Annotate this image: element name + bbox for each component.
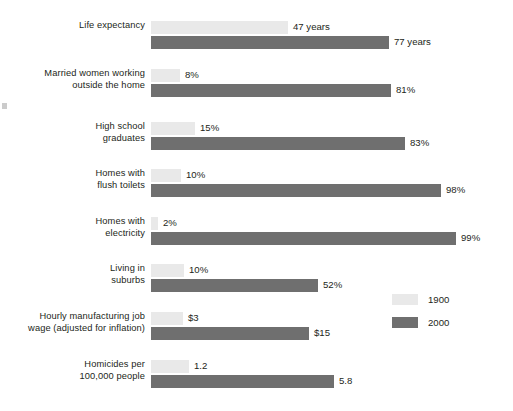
category-label: Married women workingoutside the home bbox=[0, 68, 145, 91]
legend-item: 1900 bbox=[392, 291, 502, 314]
bar-2000 bbox=[151, 279, 318, 292]
bar-2000 bbox=[151, 327, 309, 340]
legend-swatch-icon bbox=[392, 317, 418, 328]
category-label: Homes withelectricity bbox=[0, 216, 145, 239]
legend-item: 2000 bbox=[392, 314, 502, 337]
category-label-line: High school bbox=[0, 121, 145, 133]
category-label-line: electricity bbox=[0, 228, 145, 240]
category-label: Hourly manufacturing jobwage (adjusted f… bbox=[0, 311, 145, 334]
bar-2000 bbox=[151, 232, 456, 245]
category-label-line: wage (adjusted for inflation) bbox=[0, 323, 145, 335]
bar-1900 bbox=[151, 312, 183, 325]
category-label: Living insuburbs bbox=[0, 263, 145, 286]
category-label-line: outside the home bbox=[0, 80, 145, 92]
category-label-line: suburbs bbox=[0, 275, 145, 287]
legend-label: 2000 bbox=[428, 314, 449, 331]
category-label: Life expectancy bbox=[0, 20, 145, 32]
bar-value-label: 8% bbox=[185, 68, 199, 82]
bar-1900 bbox=[151, 69, 180, 82]
category-label: Homes withflush toilets bbox=[0, 168, 145, 191]
category-label-line: Living in bbox=[0, 263, 145, 275]
bar-value-label: 10% bbox=[186, 168, 205, 182]
category-label: Homicides per100,000 people bbox=[0, 359, 145, 382]
category-label-line: Homes with bbox=[0, 216, 145, 228]
bar-value-label: 99% bbox=[461, 231, 480, 245]
bar-value-label: 52% bbox=[323, 278, 342, 292]
category-label-line: Life expectancy bbox=[0, 20, 145, 32]
category-label-line: Married women working bbox=[0, 68, 145, 80]
category-label-line: 100,000 people bbox=[0, 371, 145, 383]
category-label-line: graduates bbox=[0, 133, 145, 145]
category-label-line: Homes with bbox=[0, 168, 145, 180]
bar-1900 bbox=[151, 360, 189, 373]
legend-label: 1900 bbox=[428, 291, 449, 308]
bar-2000 bbox=[151, 184, 441, 197]
bar-value-label: $3 bbox=[188, 311, 199, 325]
bar-value-label: 10% bbox=[189, 263, 208, 277]
grouped-bar-chart: Life expectancy47 years77 yearsMarried w… bbox=[0, 0, 513, 411]
bar-2000 bbox=[151, 36, 389, 49]
bar-value-label: 98% bbox=[446, 183, 465, 197]
bar-1900 bbox=[151, 169, 181, 182]
bar-value-label: 1.2 bbox=[194, 359, 207, 373]
bar-1900 bbox=[151, 217, 158, 230]
category-label-line: Homicides per bbox=[0, 359, 145, 371]
bar-value-label: 47 years bbox=[293, 20, 330, 34]
bar-value-label: 83% bbox=[410, 136, 429, 150]
scan-artifact bbox=[2, 103, 7, 109]
category-label: High schoolgraduates bbox=[0, 121, 145, 144]
bar-1900 bbox=[151, 122, 195, 135]
bar-value-label: 77 years bbox=[394, 35, 431, 49]
bar-value-label: 15% bbox=[200, 121, 219, 135]
bar-1900 bbox=[151, 264, 184, 277]
category-label-line: flush toilets bbox=[0, 180, 145, 192]
chart-legend: 19002000 bbox=[392, 291, 502, 337]
bar-value-label: 5.8 bbox=[339, 374, 352, 388]
bar-2000 bbox=[151, 84, 391, 97]
category-label-line: Hourly manufacturing job bbox=[0, 311, 145, 323]
bar-2000 bbox=[151, 137, 405, 150]
bar-value-label: 81% bbox=[396, 83, 415, 97]
bar-value-label: $15 bbox=[314, 326, 330, 340]
legend-swatch-icon bbox=[392, 294, 418, 305]
bar-value-label: 2% bbox=[163, 216, 177, 230]
bar-2000 bbox=[151, 375, 334, 388]
bar-1900 bbox=[151, 21, 288, 34]
